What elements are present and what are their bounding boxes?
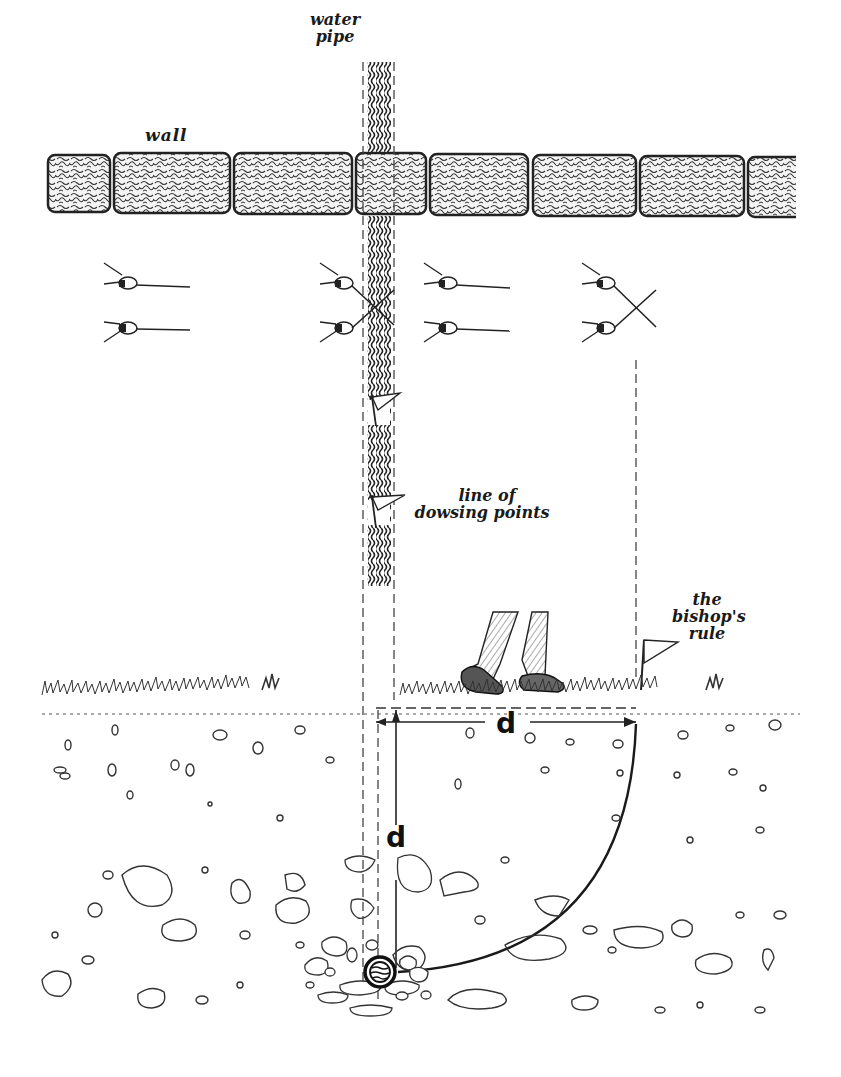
dowsing-points-label: line of dowsing points [402, 488, 562, 522]
hand-icon [582, 322, 615, 342]
dowsing-points-label-line2: dowsing points [402, 505, 562, 522]
hand-icon [424, 263, 457, 289]
hand-icon [582, 263, 615, 289]
dowsing-station-4-crossed [582, 263, 656, 342]
hand-icon [104, 322, 137, 342]
pipe-bedding-stones [305, 855, 432, 1016]
bishops-rule-label-line3: rule [672, 626, 742, 643]
hand-icon [320, 322, 353, 342]
horizontal-distance-label: d [496, 707, 516, 740]
hand-icon [424, 322, 457, 342]
water-pipe-label: water pipe [300, 12, 370, 46]
bishops-rule-flag-icon [641, 640, 678, 690]
wall [48, 140, 841, 230]
dowsing-station-3 [424, 263, 510, 342]
dowsing-station-1 [104, 263, 190, 342]
water-pipe-label-line2: pipe [300, 29, 370, 46]
grass-surface [42, 674, 723, 695]
hand-icon [320, 263, 353, 289]
wall-label: wall [145, 127, 188, 145]
buried-pipe-icon [365, 957, 395, 987]
bishops-rule-construction [376, 708, 636, 972]
marker-flag-icon [368, 495, 405, 528]
marker-flag-icon [368, 393, 400, 426]
diagram-canvas [0, 0, 841, 1077]
hand-icon [104, 263, 137, 289]
bishops-rule-label: the bishop's rule [672, 592, 742, 642]
vertical-depth-label: d [386, 821, 406, 854]
